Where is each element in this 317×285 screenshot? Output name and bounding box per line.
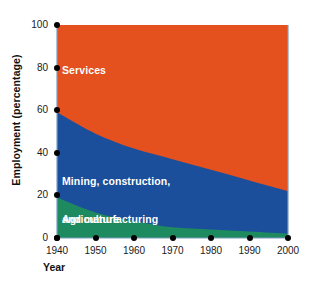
x-tick-dot [170,235,176,241]
x-tick-dot [247,235,253,241]
chart-figure: Employment (percentage) Year 02040608010… [0,0,317,285]
y-tick-label: 20 [18,189,48,200]
x-tick-dot [54,235,60,241]
y-tick-dot [54,22,60,28]
x-tick-label: 1980 [191,245,231,256]
x-tick-label: 1990 [230,245,270,256]
series-label-agriculture: Agriculture [62,213,119,226]
y-tick-label: 60 [18,104,48,115]
y-tick-dot [54,65,60,71]
series-label-mining: Mining, construction, and manufacturing [62,150,170,250]
series-label-services: Services [62,64,106,77]
y-tick-label: 40 [18,147,48,158]
y-tick-label: 80 [18,62,48,73]
y-tick-label: 0 [18,232,48,243]
x-tick-dot [208,235,214,241]
y-tick-dot [54,150,60,156]
x-tick-dot [285,235,291,241]
y-tick-label: 100 [18,19,48,30]
x-tick-label: 2000 [268,245,308,256]
series-label-mining-line1: Mining, construction, [62,175,170,188]
